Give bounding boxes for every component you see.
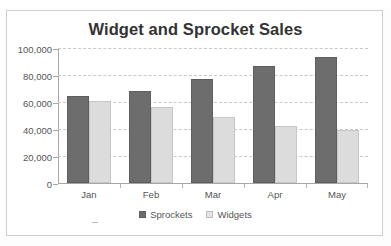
bar-sprockets-may[interactable] [315, 57, 337, 183]
legend-label-sprockets: Sprockets [150, 209, 192, 220]
x-axis-label-apr: Apr [244, 189, 306, 200]
bar-group-may [306, 48, 368, 183]
bar-group-feb [120, 48, 182, 183]
y-axis-tick-label: 0 [47, 179, 52, 190]
gridline: 0 [58, 183, 368, 184]
x-axis-label-mar: Mar [182, 189, 244, 200]
bar-widgets-feb[interactable] [151, 107, 173, 183]
y-axis-tick-label: 60,000 [23, 98, 52, 109]
bar-sprockets-apr[interactable] [253, 66, 275, 183]
bar-group-apr [244, 48, 306, 183]
bar-sprockets-mar[interactable] [191, 79, 213, 183]
scan-stray-mark [92, 222, 98, 223]
bar-widgets-jan[interactable] [89, 101, 111, 183]
x-axis-labels: JanFebMarAprMay [58, 189, 368, 200]
bar-group-jan [58, 48, 120, 183]
x-axis-tick [244, 183, 245, 188]
x-axis-tick [182, 183, 183, 188]
chart-object[interactable]: Widget and Sprocket Sales 020,00040,0006… [6, 10, 383, 236]
x-axis-label-feb: Feb [120, 189, 182, 200]
bar-sprockets-jan[interactable] [67, 96, 89, 183]
y-axis-tick-label: 80,000 [23, 71, 52, 82]
y-axis-tick-label: 20,000 [23, 152, 52, 163]
bar-widgets-apr[interactable] [275, 126, 297, 183]
scan-artifact-band [0, 0, 391, 7]
chart-legend[interactable]: Sprockets Widgets [7, 209, 384, 220]
bar-group-mar [182, 48, 244, 183]
chart-title: Widget and Sprocket Sales [7, 20, 384, 39]
bar-widgets-may[interactable] [337, 130, 359, 183]
legend-item-widgets[interactable]: Widgets [206, 209, 251, 220]
y-axis-tick-label: 100,000 [18, 44, 52, 55]
bar-widgets-mar[interactable] [213, 117, 235, 183]
x-axis-tick [367, 183, 368, 188]
x-axis-tick [306, 183, 307, 188]
legend-label-widgets: Widgets [217, 209, 251, 220]
legend-swatch-sprockets-icon [139, 211, 146, 218]
plot-area: 020,00040,00060,00080,000100,000 [58, 48, 368, 183]
x-axis-label-may: May [306, 189, 368, 200]
legend-swatch-widgets-icon [206, 211, 213, 218]
screenshot-page: Widget and Sprocket Sales 020,00040,0006… [0, 0, 391, 246]
y-axis-tick-label: 40,000 [23, 125, 52, 136]
legend-item-sprockets[interactable]: Sprockets [139, 209, 192, 220]
x-axis-tick [120, 183, 121, 188]
y-axis-tick [53, 184, 58, 185]
bar-sprockets-feb[interactable] [129, 91, 151, 183]
x-axis-label-jan: Jan [58, 189, 120, 200]
bars-layer [58, 48, 368, 183]
